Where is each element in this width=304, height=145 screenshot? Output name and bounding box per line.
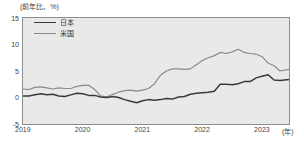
y-axis-tick-labels: 151050-5 [0,0,19,145]
legend-item-japan: 日本 [34,18,74,27]
chart-legend: 日本 米国 [34,18,74,40]
y-tick-0: 0 [3,94,19,101]
x-tick-2020: 2020 [75,126,91,133]
legend-line-swatch-japan [34,22,56,23]
inflation-line-chart: (前年比、%) 151050-5 20192020202120222023 (年… [0,0,304,145]
legend-item-usa: 米国 [34,29,74,38]
legend-label-japan: 日本 [60,18,74,27]
y-axis-unit-label: (前年比、%) [20,1,59,11]
series-line-usa [23,49,289,97]
legend-line-swatch-usa [34,33,56,34]
x-axis-unit-label: (年) [282,126,294,136]
y-tick-10: 10 [3,41,19,48]
x-tick-2021: 2021 [135,126,151,133]
y-tick-5: 5 [3,68,19,75]
x-tick-2022: 2022 [194,126,210,133]
x-tick-2019: 2019 [15,126,31,133]
y-tick-15: 15 [3,15,19,22]
legend-label-usa: 米国 [60,29,74,38]
x-tick-2023: 2023 [254,126,270,133]
